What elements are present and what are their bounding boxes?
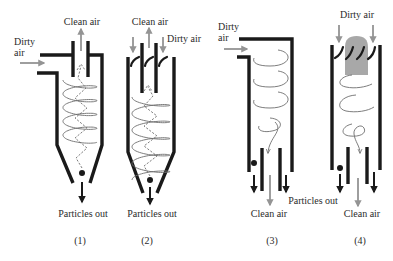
caption-1: (1) [74, 235, 86, 247]
guide-vane-3 [159, 57, 167, 66]
vortex-exit-arrow [268, 122, 278, 153]
cyclone-1: Dirty air Clean air Particles out (1) [14, 16, 108, 247]
cyclone-2: Clean air Dirty air Particles out (2) [127, 16, 202, 247]
cyclone-3: Dirty air Particles out Clean air (3) [218, 21, 338, 247]
outer-wall-left [237, 57, 249, 172]
particle-dot [147, 177, 153, 183]
clean-air-label: Clean air [344, 208, 381, 219]
caption-4: (4) [354, 235, 366, 247]
inner-vortex-zigzag [75, 66, 87, 168]
outer-wall-right [88, 55, 102, 183]
vortex-loop-1 [254, 50, 288, 66]
particle-dot [79, 170, 85, 176]
outer-vortex-helix [63, 80, 97, 143]
inner-vortex-chevron [77, 64, 85, 70]
clean-air-label: Clean air [251, 208, 288, 219]
dirty-air-label-line2: air [218, 32, 229, 43]
particles-out-label: Particles out [127, 208, 177, 219]
dirty-air-label: Dirty air [340, 9, 375, 20]
dirty-air-label-line1: Dirty [14, 36, 35, 47]
caption-2: (2) [141, 235, 153, 247]
vortex-loop-1 [340, 75, 372, 88]
guide-vane-1 [131, 57, 139, 66]
guide-vane-2 [145, 57, 153, 66]
inner-vortex-zigzag [144, 87, 157, 176]
particles-out-label: Particles out [288, 195, 338, 206]
clean-air-label: Clean air [64, 16, 101, 27]
vortex-loop-3 [254, 92, 288, 108]
dirty-air-label-line2: air [14, 47, 25, 58]
caption-3: (3) [266, 235, 278, 247]
inner-vortex-chevron [144, 85, 152, 91]
guide-vane-1 [335, 47, 343, 58]
vortex-loop-2 [254, 71, 288, 87]
guide-vane-4 [368, 47, 375, 59]
particle-dot [337, 165, 343, 171]
dirty-air-label: Dirty air [167, 33, 202, 44]
cyclone-4: Dirty air Clean air (4) [332, 9, 381, 247]
clean-air-label: Clean air [132, 16, 169, 27]
vortex-exit-arrow [354, 134, 360, 153]
outer-vortex-helix [132, 97, 170, 180]
dirty-air-label-line1: Dirty [218, 21, 239, 32]
particles-out-label: Particles out [58, 208, 108, 219]
cyclone-diagram: Dirty air Clean air Particles out (1) Cl… [0, 0, 393, 261]
vortex-loop-2 [340, 95, 374, 112]
particle-dot [251, 160, 257, 166]
